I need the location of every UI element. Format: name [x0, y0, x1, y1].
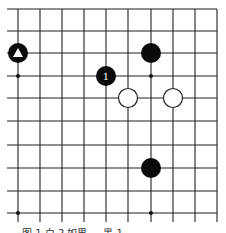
star-point: [149, 74, 153, 78]
go-board-diagram: 1: [0, 0, 226, 233]
diagram-caption: 图 1 白 2 如果 ... 黑 1 ...: [22, 225, 226, 233]
star-point: [16, 74, 20, 78]
white-stone: [119, 89, 138, 108]
move-number-label: 1: [103, 71, 109, 82]
white-stone: [164, 89, 183, 108]
black-stone: [141, 43, 161, 63]
star-point: [16, 211, 20, 215]
black-stone: [141, 158, 161, 178]
star-point: [149, 211, 153, 215]
